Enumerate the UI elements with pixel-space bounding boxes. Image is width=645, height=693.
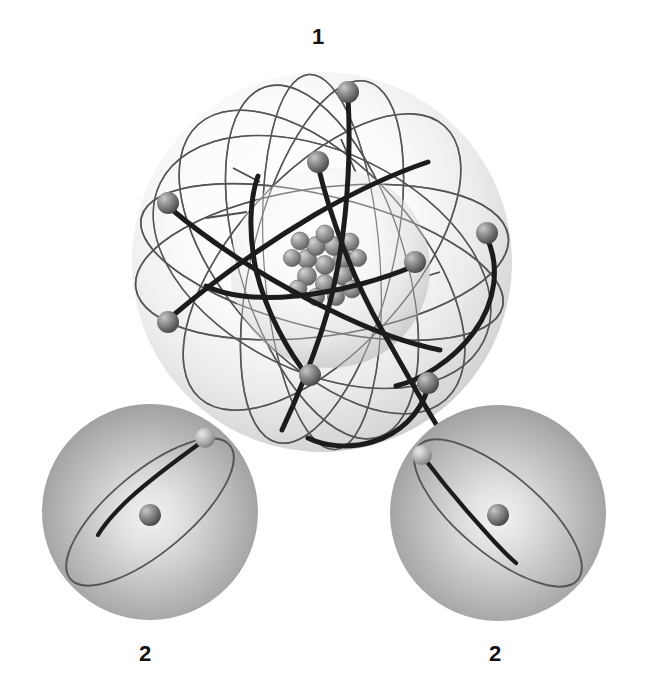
electron xyxy=(299,364,321,386)
nucleon xyxy=(291,232,309,250)
electron xyxy=(337,81,359,103)
small-atom-right-nucleus xyxy=(487,504,509,526)
nucleon xyxy=(316,225,334,243)
small-atom-left-nucleus xyxy=(139,504,161,526)
figure-label-1: 1 xyxy=(298,24,338,50)
small-atom-right-electron xyxy=(412,445,432,465)
electron xyxy=(417,372,439,394)
figure-label-2-left: 2 xyxy=(125,641,165,667)
small-atom-left xyxy=(42,404,258,620)
nucleon xyxy=(283,249,300,266)
small-atom-right xyxy=(390,405,606,621)
nucleon xyxy=(316,256,335,275)
figure-label-2-right: 2 xyxy=(475,641,515,667)
electron xyxy=(157,192,179,214)
electron xyxy=(157,311,179,333)
electron xyxy=(476,222,498,244)
electron xyxy=(307,151,329,173)
electron xyxy=(404,251,426,273)
atom-diagram xyxy=(0,0,645,693)
small-atom-left-electron xyxy=(195,428,215,448)
